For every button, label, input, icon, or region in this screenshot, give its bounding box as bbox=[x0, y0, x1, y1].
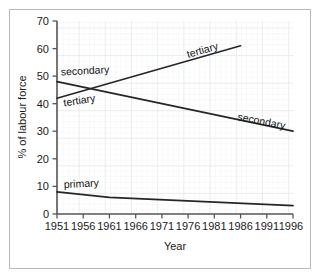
y-tick-30: 30 bbox=[37, 125, 49, 137]
chart-figure: 70 60 50 40 30 20 10 0 1951 1956 1961 19… bbox=[0, 0, 321, 278]
y-tick-10: 10 bbox=[37, 180, 49, 192]
y-tick-0: 0 bbox=[43, 208, 49, 220]
x-tick-1961: 1961 bbox=[97, 220, 121, 232]
annotation-primary: primary bbox=[63, 176, 99, 190]
y-tick-70: 70 bbox=[37, 15, 49, 27]
line-chart: 70 60 50 40 30 20 10 0 1951 1956 1961 19… bbox=[0, 0, 321, 278]
x-tick-1996: 1996 bbox=[279, 220, 303, 232]
annotation-secondary-left: secondary bbox=[60, 63, 110, 78]
y-axis-tick-labels: 70 60 50 40 30 20 10 0 bbox=[37, 15, 49, 220]
x-tick-1971: 1971 bbox=[150, 220, 174, 232]
y-tick-20: 20 bbox=[37, 153, 49, 165]
x-tick-1981: 1981 bbox=[202, 220, 226, 232]
y-axis-title: % of labour force bbox=[16, 75, 28, 158]
x-axis-tick-labels: 1951 1956 1961 1966 1971 1976 1981 1986 … bbox=[45, 220, 303, 232]
y-tick-40: 40 bbox=[37, 98, 49, 110]
x-tick-1976: 1976 bbox=[176, 220, 200, 232]
x-tick-1991: 1991 bbox=[255, 220, 279, 232]
x-tick-1966: 1966 bbox=[123, 220, 147, 232]
x-tick-1986: 1986 bbox=[228, 220, 252, 232]
x-tick-1956: 1956 bbox=[71, 220, 95, 232]
y-tick-60: 60 bbox=[37, 43, 49, 55]
y-tick-50: 50 bbox=[37, 70, 49, 82]
x-tick-1951: 1951 bbox=[45, 220, 69, 232]
x-axis-title: Year bbox=[164, 240, 187, 252]
